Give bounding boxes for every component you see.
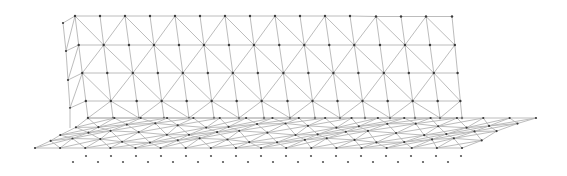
mesh-node [59, 134, 61, 136]
mesh-edge [122, 142, 150, 143]
mesh-node [284, 122, 286, 124]
mesh-edge [279, 45, 283, 73]
mesh-edge [431, 118, 439, 126]
mesh-edge [452, 17, 455, 46]
mesh-node [257, 72, 259, 74]
mesh-edge [304, 16, 325, 45]
mesh-edge [404, 142, 412, 148]
mesh-node [153, 44, 155, 46]
mesh-edge [384, 73, 388, 101]
mesh-edge [350, 16, 354, 45]
mesh-node [210, 147, 212, 149]
mesh-node [294, 134, 296, 136]
mesh-node [358, 125, 360, 127]
mesh-node [488, 125, 490, 127]
mesh-edge [150, 16, 154, 45]
mesh-edge [305, 140, 311, 148]
mesh-node [199, 137, 201, 139]
mesh-node [274, 15, 276, 17]
scatter-point [347, 161, 349, 163]
mesh-edge [212, 73, 233, 101]
mesh-node [71, 137, 73, 139]
mesh-edge [162, 101, 189, 118]
mesh-edge [88, 101, 111, 118]
mesh-node [205, 126, 207, 128]
mesh-node [349, 15, 351, 17]
mesh-edge [474, 131, 481, 140]
mesh-edge [267, 133, 295, 135]
mesh-edge [63, 23, 66, 51]
mesh-node [408, 72, 410, 74]
scatter-point [310, 155, 312, 157]
mesh-edge [133, 73, 137, 101]
mesh-node [324, 117, 326, 119]
mesh-node [207, 72, 209, 74]
mesh-edge [162, 73, 183, 101]
mesh-node [509, 117, 511, 119]
mesh-edge [454, 138, 462, 148]
mesh-edge [413, 101, 440, 118]
mesh-edge [187, 101, 189, 118]
mesh-node [128, 44, 130, 46]
scatter-point [285, 155, 287, 157]
mesh-edge [304, 45, 333, 73]
mesh-node [350, 117, 352, 119]
mesh-node [75, 126, 77, 128]
scatter-point [322, 161, 324, 163]
mesh-node [99, 138, 101, 140]
mesh-edge [401, 17, 405, 46]
mesh-edge [183, 73, 187, 101]
mesh-node [174, 15, 176, 17]
mesh-edge [158, 73, 162, 101]
mesh-edge [79, 45, 83, 73]
mesh-edge [455, 45, 458, 73]
mesh-edge [405, 17, 426, 46]
mesh-edge [338, 101, 341, 118]
mesh-edge [396, 133, 424, 135]
mesh-edge [363, 101, 366, 118]
mesh-edge [460, 101, 462, 118]
mesh-edge [133, 73, 162, 101]
mesh-node [482, 117, 484, 119]
mesh-edge [405, 45, 409, 73]
mesh-node [224, 15, 226, 17]
mesh-node [377, 117, 379, 119]
mesh-node [454, 44, 456, 46]
mesh-edge [304, 45, 308, 73]
mesh-node [303, 44, 305, 46]
mesh-edge [75, 16, 79, 45]
mesh-node [307, 72, 309, 74]
mesh-node [50, 140, 52, 142]
mesh-edge [155, 123, 177, 125]
mesh-edge [183, 73, 212, 101]
scatter-point [122, 161, 124, 163]
mesh-edge [384, 73, 413, 101]
mesh-edge [438, 126, 466, 127]
mesh-node [361, 100, 363, 102]
mesh-edge [104, 16, 125, 45]
mesh-node [185, 147, 187, 149]
mesh-edge [405, 45, 434, 73]
mesh-edge [325, 16, 329, 45]
mesh-node [65, 50, 67, 52]
mesh-node [386, 123, 388, 125]
mesh-node [429, 44, 431, 46]
mesh-edge [462, 140, 482, 148]
mesh-node [310, 147, 312, 149]
mesh-edge [183, 45, 204, 73]
mesh-edge [333, 73, 362, 101]
mesh-edge [233, 73, 237, 101]
scatter-point [422, 161, 424, 163]
mesh-node [278, 44, 280, 46]
mesh-edge [200, 16, 204, 45]
mesh-node [110, 100, 112, 102]
mesh-node [232, 72, 234, 74]
mesh-edge [438, 101, 440, 118]
mesh-edge [396, 133, 404, 142]
mesh-edge [368, 131, 396, 133]
mesh-edge [82, 73, 111, 101]
mesh-edge [239, 131, 267, 133]
mesh-node [496, 130, 498, 132]
mesh-edge [139, 101, 162, 118]
scatter-point [85, 155, 87, 157]
